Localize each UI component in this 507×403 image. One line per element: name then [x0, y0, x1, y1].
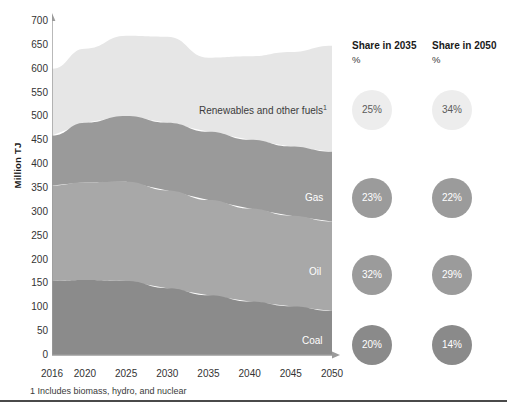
- x-axis-tick-labels: 20162020202520302035204020452050: [52, 369, 352, 385]
- y-axis-tick-label: 200: [14, 255, 48, 265]
- series-label-renewables-footnote-marker: 1: [323, 104, 327, 111]
- series-label-oil: Oil: [309, 267, 321, 277]
- share-bubble-2050-gas: 22%: [432, 178, 472, 218]
- plot-area: Renewables and other fuels1 Gas Oil Coal: [52, 13, 340, 368]
- y-axis-arrow-icon: [52, 13, 55, 21]
- area-bands: [52, 36, 332, 355]
- share-column-2050-header: Share in 2050: [432, 40, 507, 53]
- share-column-2050-unit: %: [432, 54, 507, 66]
- series-label-renewables: Renewables and other fuels1: [199, 106, 327, 116]
- stacked-area-chart-figure: Million TJ 05010015020025030035040045050…: [0, 0, 507, 403]
- x-axis-tick-label: 2045: [270, 369, 312, 379]
- share-column-2050: Share in 2050 % 34% 22% 29% 14%: [432, 40, 507, 66]
- chart-footnote: 1 Includes biomass, hydro, and nuclear: [30, 386, 187, 396]
- stacked-area-plot: [52, 13, 340, 368]
- y-axis-tick-label: 450: [14, 135, 48, 145]
- share-bubble-2035-renewables: 25%: [352, 90, 392, 130]
- share-bubble-2050-renewables: 34%: [432, 90, 472, 130]
- x-axis-tick-label: 2030: [146, 369, 188, 379]
- y-axis-tick-label: 400: [14, 159, 48, 169]
- y-axis-tick-label: 0: [14, 350, 48, 360]
- x-axis-tick-label: 2050: [311, 369, 353, 379]
- y-axis-tick-label: 250: [14, 231, 48, 241]
- x-axis-tick-label: 2040: [229, 369, 271, 379]
- y-axis-tick-labels: 0501001502002503003504004505005506006507…: [8, 13, 48, 368]
- share-column-2035: Share in 2035 % 25% 23% 32% 20%: [352, 40, 440, 66]
- y-axis-tick-label: 100: [14, 302, 48, 312]
- bottom-divider: [0, 400, 507, 402]
- series-label-coal: Coal: [302, 336, 323, 346]
- x-axis-tick-label: 2020: [64, 369, 106, 379]
- y-axis-tick-label: 550: [14, 88, 48, 98]
- x-axis-arrow-icon: [332, 352, 340, 359]
- y-axis-tick-label: 150: [14, 278, 48, 288]
- share-column-2035-unit: %: [352, 54, 440, 66]
- y-axis-tick-label: 500: [14, 111, 48, 121]
- y-axis-tick-label: 700: [14, 16, 48, 26]
- share-bubble-2035-gas: 23%: [352, 178, 392, 218]
- y-axis-tick-label: 650: [14, 40, 48, 50]
- share-bubble-2050-coal: 14%: [432, 325, 472, 365]
- y-axis-tick-label: 50: [14, 326, 48, 336]
- y-axis-tick-label: 350: [14, 183, 48, 193]
- y-axis-tick-label: 300: [14, 207, 48, 217]
- share-bubble-2035-coal: 20%: [352, 325, 392, 365]
- share-bubble-2050-oil: 29%: [432, 255, 472, 295]
- x-axis-tick-label: 2035: [187, 369, 229, 379]
- x-axis-tick-label: 2025: [105, 369, 147, 379]
- series-label-renewables-text: Renewables and other fuels: [199, 105, 323, 116]
- share-column-2035-header: Share in 2035: [352, 40, 440, 53]
- share-bubble-2035-oil: 32%: [352, 255, 392, 295]
- series-label-gas: Gas: [305, 193, 323, 203]
- y-axis-tick-label: 600: [14, 64, 48, 74]
